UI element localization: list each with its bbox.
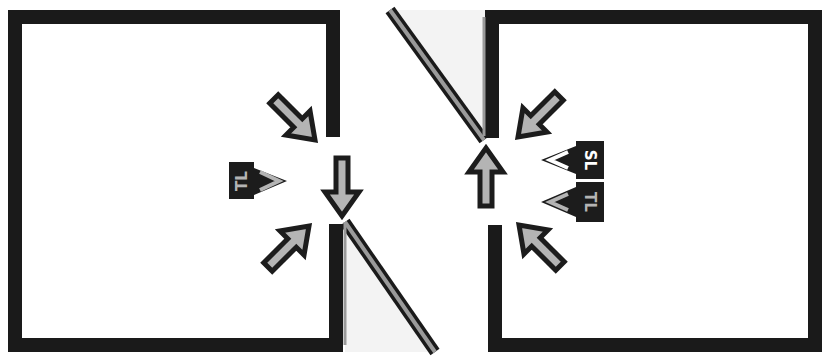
left-room: TL [15,17,435,352]
right-sl-label: SL [581,150,599,171]
arrow-up-icon [469,148,503,206]
arrow-down-right-icon [262,87,327,152]
diagram-svg: TL SL [0,0,822,363]
tl-arrow-left-icon: TL [541,182,604,222]
left-room-wall [15,17,336,345]
arrow-down-left-icon [506,84,571,149]
tl-arrow-right-icon: TL [229,162,287,199]
sl-arrow-left-icon: SL [541,141,604,179]
right-room-wall [492,17,815,345]
arrow-up-left-icon [507,213,572,278]
arrow-up-right-icon [256,214,321,279]
right-tl-label: TL [581,192,599,212]
left-tl-label: TL [233,171,251,191]
diagram-canvas: TL SL [0,0,822,363]
arrow-down-icon [325,158,359,216]
right-room: SL TL [390,10,815,345]
